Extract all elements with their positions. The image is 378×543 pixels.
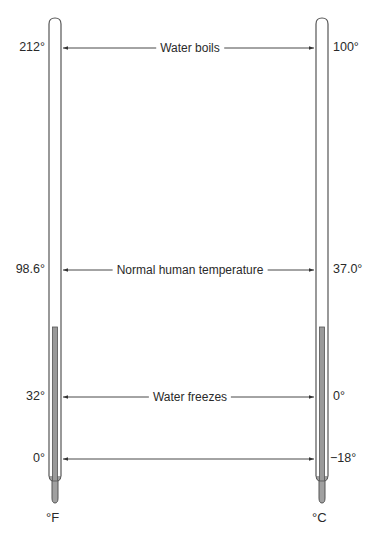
water-freezes-label: Water freezes	[149, 390, 231, 404]
celsius-thermometer	[316, 18, 328, 503]
fahrenheit-unit-label: °F	[46, 511, 59, 525]
celsius-mercury-column	[320, 327, 325, 481]
normal-human-temperature-label: Normal human temperature	[113, 263, 268, 277]
celsius-unit-label: °C	[312, 511, 327, 525]
celsius-boils-label: 100°	[333, 40, 359, 54]
fahrenheit-freezes-label: 32°	[26, 389, 45, 403]
celsius-zero-label: −18°	[330, 451, 356, 465]
fahrenheit-thermometer	[49, 18, 61, 503]
fahrenheit-zero-label: 0°	[33, 451, 45, 465]
fahrenheit-mercury-column	[53, 327, 58, 481]
fahrenheit-normal-label: 98.6°	[16, 262, 45, 276]
celsius-normal-label: 37.0°	[333, 262, 362, 276]
celsius-freezes-label: 0°	[333, 389, 345, 403]
water-boils-label: Water boils	[156, 41, 224, 55]
fahrenheit-boils-label: 212°	[19, 40, 45, 54]
